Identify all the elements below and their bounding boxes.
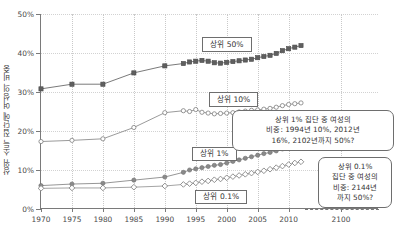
data-point (187, 60, 191, 64)
y-tick-label: 40% (18, 49, 34, 58)
data-point (70, 82, 74, 86)
data-point (243, 58, 247, 62)
y-tick-label: 20% (18, 127, 34, 136)
series-callout-4: 상위 0.1% (195, 190, 247, 205)
data-point (206, 164, 210, 168)
data-point (242, 171, 248, 177)
chart-container: 상위 소득 집단에 여성의 비중 0%10%20%30%40%50% 19701… (0, 0, 397, 239)
x-tick-label: 2010 (279, 215, 298, 224)
data-point (206, 111, 210, 115)
data-point (273, 165, 279, 171)
data-point (267, 166, 273, 172)
data-point (212, 61, 216, 65)
data-point (194, 107, 198, 111)
data-point (101, 137, 105, 141)
series-line (41, 46, 301, 89)
data-point (194, 59, 198, 63)
data-point (101, 82, 105, 86)
data-point (231, 59, 235, 63)
data-point (187, 109, 191, 113)
series-callout-3: 상위 1% (192, 147, 236, 162)
data-point (163, 175, 167, 179)
x-tick-label: 1975 (63, 215, 82, 224)
x-tick-label: 1970 (32, 215, 51, 224)
data-point (261, 168, 267, 174)
y-tick-label: 10% (18, 166, 34, 175)
x-tick-label: 1985 (124, 215, 143, 224)
data-point (162, 183, 168, 189)
data-point (262, 152, 266, 156)
y-axis-title: 상위 소득 집단에 여성의 비중 (2, 64, 13, 174)
annotation-bottom-01pct: 상위 0.1%집단 중 여성의비중: 2144년까지 50%? (318, 157, 392, 208)
data-point (206, 59, 210, 63)
data-point (262, 54, 266, 58)
data-point (237, 158, 241, 162)
data-point (293, 45, 297, 49)
data-point (187, 181, 193, 187)
data-point (200, 166, 204, 170)
data-point (225, 111, 229, 115)
data-point (131, 184, 137, 190)
data-point (218, 176, 224, 182)
data-point (230, 174, 236, 180)
data-point (274, 105, 278, 109)
data-point (249, 57, 253, 61)
data-point (255, 169, 261, 175)
data-point (181, 170, 185, 174)
data-point (181, 182, 187, 188)
annotation-top-1pct: 상위 1% 집단 중 여성의비중: 1994년 10%, 2012년16%, 2… (232, 110, 394, 151)
series-callout-1: 상위 50% (202, 37, 251, 52)
data-point (218, 61, 222, 65)
data-point (132, 178, 136, 182)
data-point (268, 150, 272, 154)
data-point (181, 61, 185, 65)
data-point (199, 179, 205, 185)
data-point (287, 47, 291, 51)
data-point (212, 112, 216, 116)
series-1 (39, 43, 303, 90)
data-point (218, 111, 222, 115)
data-point (194, 167, 198, 171)
annotation-line: 까지 50%? (324, 193, 386, 204)
data-point (280, 49, 284, 53)
series-callout-2: 상위 10% (209, 92, 258, 107)
y-tick-label: 30% (18, 88, 34, 97)
data-point (132, 71, 136, 75)
data-point (193, 180, 199, 186)
data-point (287, 102, 291, 106)
data-point (274, 51, 278, 55)
data-point (100, 185, 106, 191)
data-point (225, 60, 229, 64)
data-point (243, 156, 247, 160)
data-point (298, 159, 304, 165)
y-tick-label: 0% (22, 205, 34, 214)
data-point (293, 102, 297, 106)
data-point (286, 162, 292, 168)
data-point (268, 53, 272, 57)
annotation-line: 상위 1% 집단 중 여성의 (238, 115, 388, 126)
data-point (163, 64, 167, 68)
data-point (212, 177, 218, 183)
data-point (299, 101, 303, 105)
x-tick-label: 1990 (155, 215, 174, 224)
data-point (39, 87, 43, 91)
annotation-line: 상위 0.1% (324, 162, 386, 173)
data-point (236, 173, 242, 179)
annotation-line: 16%, 2102년까지 50%? (238, 136, 388, 147)
x-tick-label: 1980 (93, 215, 112, 224)
data-point (163, 111, 167, 115)
x-tick-label: 2100 (332, 215, 351, 224)
data-point (200, 58, 204, 62)
data-point (70, 138, 74, 142)
data-point (237, 59, 241, 63)
data-point (292, 160, 298, 166)
data-point (212, 163, 216, 167)
data-point (256, 56, 260, 60)
data-point (299, 43, 303, 47)
annotation-line: 비중: 1994년 10%, 2012년 (238, 125, 388, 136)
x-tick-label: 2000 (217, 215, 236, 224)
data-point (39, 139, 43, 143)
annotation-line: 비중: 2144년 (324, 183, 386, 194)
data-point (132, 125, 136, 129)
data-point (187, 168, 191, 172)
